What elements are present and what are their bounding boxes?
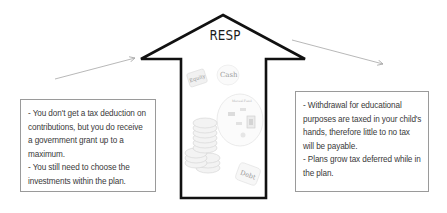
left-info-line: - You don't get a tax deduction on contr…	[28, 107, 149, 161]
cash-label: Cash	[220, 71, 238, 79]
right-info-line: - Plans grow tax deferred while in the p…	[303, 153, 422, 180]
right-info-box: - Withdrawal for educational purposes ar…	[295, 91, 429, 192]
left-info-line: - You still need to choose the investmen…	[28, 161, 149, 188]
right-pointer-arrow	[292, 40, 383, 64]
diagram-title: RESP	[206, 27, 243, 43]
left-pointer-arrow	[55, 58, 135, 79]
resp-diagram: RESP Equity Cash Mutual Fund Debt - You …	[0, 0, 447, 213]
left-info-box: - You don't get a tax deduction on contr…	[20, 99, 156, 192]
right-info-line: - Withdrawal for educational purposes ar…	[303, 99, 422, 153]
mutual-fund-label: Mutual Fund	[232, 99, 252, 103]
